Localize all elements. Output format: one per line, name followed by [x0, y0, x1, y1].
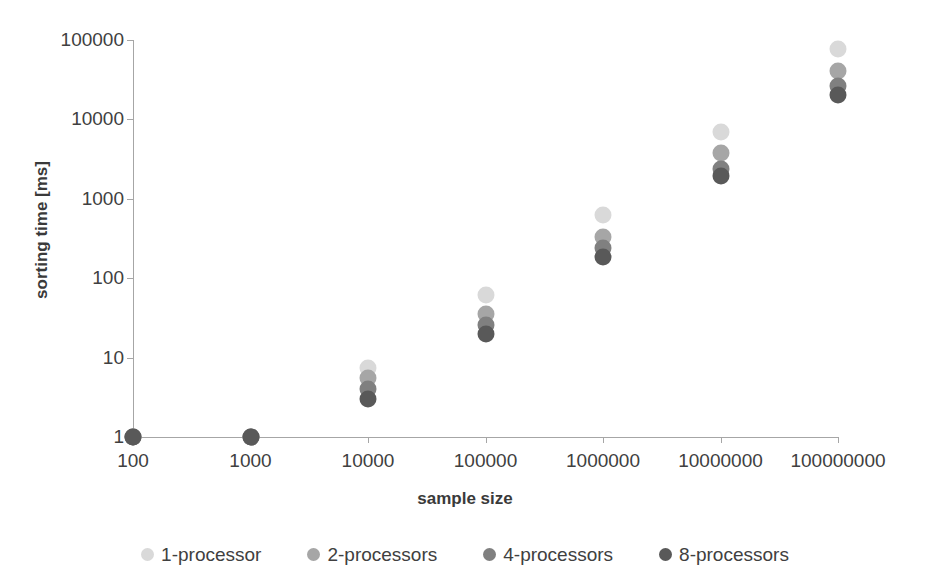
y-axis-tick	[127, 199, 133, 200]
x-axis-tick	[368, 437, 369, 443]
data-point	[830, 62, 847, 79]
legend-marker-icon	[141, 548, 154, 561]
plot-area	[133, 40, 838, 437]
data-point	[242, 429, 259, 446]
data-point	[712, 123, 729, 140]
legend-item[interactable]: 1-processor	[141, 545, 261, 564]
legend-item-label: 8-processors	[679, 545, 789, 564]
legend-item[interactable]: 4-processors	[483, 545, 613, 564]
x-axis-tick	[721, 437, 722, 443]
x-axis-tick-label: 1000000	[566, 451, 640, 470]
data-point	[477, 286, 494, 303]
y-axis-title: sorting time [ms]	[32, 100, 52, 360]
legend-item-label: 4-processors	[503, 545, 613, 564]
x-axis-tick	[838, 437, 839, 443]
y-axis-tick	[127, 278, 133, 279]
y-axis-tick	[127, 119, 133, 120]
data-point	[595, 207, 612, 224]
y-axis-tick	[127, 358, 133, 359]
legend-marker-icon	[659, 548, 672, 561]
legend-item-label: 1-processor	[161, 545, 261, 564]
data-point	[830, 40, 847, 57]
data-point	[125, 429, 142, 446]
x-axis-tick-label: 100000	[454, 451, 517, 470]
y-axis-tick	[127, 40, 133, 41]
x-axis-tick-label: 100000000	[790, 451, 885, 470]
x-axis-tick	[486, 437, 487, 443]
x-axis-tick	[603, 437, 604, 443]
data-point	[712, 144, 729, 161]
data-point	[712, 167, 729, 184]
x-axis-title: sample size	[0, 489, 930, 509]
legend-item-label: 2-processors	[327, 545, 437, 564]
legend-item[interactable]: 8-processors	[659, 545, 789, 564]
legend-item[interactable]: 2-processors	[307, 545, 437, 564]
legend-marker-icon	[483, 548, 496, 561]
x-axis-tick-label: 1000	[229, 451, 271, 470]
chart-legend: 1-processor2-processors4-processors8-pro…	[0, 545, 930, 564]
data-point	[360, 391, 377, 408]
data-point	[477, 325, 494, 342]
data-point	[830, 87, 847, 104]
scatter-chart: 110100100010000100000 100100010000100000…	[0, 0, 930, 588]
data-point	[595, 248, 612, 265]
x-axis-tick-label: 10000	[342, 451, 395, 470]
x-axis-tick-label: 100	[117, 451, 149, 470]
x-axis-tick-label: 10000000	[678, 451, 763, 470]
legend-marker-icon	[307, 548, 320, 561]
